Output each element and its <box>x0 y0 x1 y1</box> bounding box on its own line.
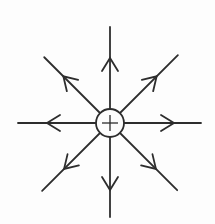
field-lines-svg <box>0 0 215 224</box>
field-diagram <box>0 0 215 224</box>
